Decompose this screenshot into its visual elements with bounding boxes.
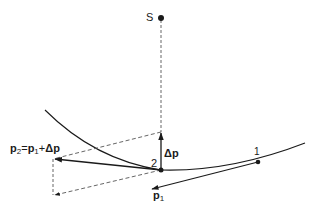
point-s [158,15,164,21]
orbit-curve [45,110,305,170]
label-delta-p: Δp [164,148,179,159]
label-equation: p2=p1+Δp [10,143,60,156]
vector-p1-copy [55,170,161,195]
label-p1-sub: 1 [160,194,164,203]
label-s: S [146,12,153,23]
momentum-diagram [0,0,321,210]
label-p1: p1 [153,190,164,203]
eq-dp: Δp [45,142,60,154]
eq-p2: p [10,142,17,154]
vector-p1 [152,162,258,189]
label-point-1: 1 [254,147,260,157]
label-point-2: 2 [151,158,157,169]
label-p1-main: p [153,189,160,201]
vector-p2 [55,159,161,170]
point-2 [159,168,164,173]
point-1 [256,160,261,165]
